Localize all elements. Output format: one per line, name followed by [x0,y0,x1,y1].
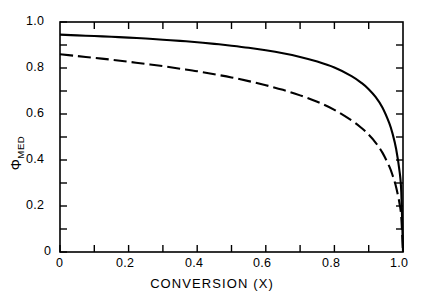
x-tick-label-6: 1.0 [390,256,408,270]
y-axis-title: ΦMED [6,108,28,198]
chart-figure: 1.0 0.8 0.6 0.4 0.2 0 0 0.2 0.4 0.6 0.8 … [0,0,424,299]
data-series-layer [60,35,403,252]
y-tick-label-4: 0.4 [26,152,44,166]
x-axis-ticks-bottom [60,245,403,252]
curve-upper-curve [60,35,403,252]
y-tick-label-6: 0 [44,244,51,258]
x-tick-label-5: 0.8 [322,256,340,270]
plot-canvas [0,0,424,299]
x-tick-label-3: 0.4 [185,256,203,270]
y-axis-subscript: MED [15,136,26,159]
curve-lower-curve [60,54,403,252]
y-tick-label-1: 1.0 [26,14,44,28]
x-tick-label-4: 0.6 [253,256,271,270]
plot-frame [60,22,403,252]
y-tick-label-2: 0.8 [26,60,44,74]
y-axis-symbol: Φ [8,159,24,171]
x-axis-title: CONVERSION (X) [0,276,424,291]
y-axis-ticks-left [60,22,67,252]
y-tick-label-3: 0.6 [26,106,44,120]
x-axis-ticks-top [94,22,368,29]
x-tick-label-1: 0 [56,256,63,270]
y-tick-label-5: 0.2 [26,198,44,212]
x-tick-label-2: 0.2 [116,256,134,270]
